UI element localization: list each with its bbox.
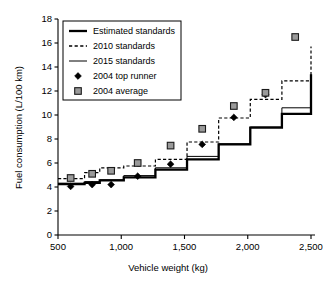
data-point-average: [108, 168, 115, 175]
legend-label: 2010 standards: [93, 41, 156, 51]
data-point-average: [167, 142, 174, 149]
x-tick-label: 1,500: [173, 241, 197, 252]
data-point-average: [292, 34, 299, 41]
data-point-top-runner: [134, 173, 141, 180]
data-point-average: [67, 175, 74, 182]
x-tick-label: 500: [50, 241, 66, 252]
data-point-average: [262, 90, 269, 97]
data-point-average: [134, 160, 141, 167]
data-point-top-runner: [167, 161, 174, 168]
y-tick-group: 024681012141618: [41, 13, 58, 240]
x-tick-group: 5001,0001,5002,0002,500: [50, 235, 323, 252]
legend-label: 2004 average: [93, 86, 148, 96]
data-point-top-runner: [230, 114, 237, 121]
y-tick-label: 2: [47, 205, 52, 216]
data-point-average: [199, 126, 206, 133]
y-tick-label: 18: [41, 13, 52, 24]
x-tick-label: 1,000: [109, 241, 133, 252]
chart-legend: Estimated standards2010 standards2015 st…: [63, 21, 181, 100]
data-point-average: [231, 103, 238, 110]
legend-label: Estimated standards: [93, 26, 176, 36]
y-tick-label: 16: [41, 37, 52, 48]
x-tick-label: 2,500: [299, 241, 323, 252]
data-point-top-runner: [108, 181, 115, 188]
y-axis-title: Fuel consumption (L/100 km): [13, 33, 24, 223]
y-tick-label: 8: [47, 133, 52, 144]
chart-canvas: 5001,0001,5002,0002,500 024681012141618 …: [0, 0, 336, 286]
legend-label: 2015 standards: [93, 56, 156, 66]
y-tick-label: 12: [41, 85, 52, 96]
x-tick-label: 2,000: [236, 241, 260, 252]
y-tick-label: 0: [47, 229, 52, 240]
legend-label: 2004 top runner: [93, 71, 157, 81]
legend-swatch-average: [75, 88, 82, 95]
fuel-consumption-chart: 5001,0001,5002,0002,500 024681012141618 …: [0, 0, 336, 286]
y-tick-label: 6: [47, 157, 52, 168]
y-tick-label: 4: [47, 181, 52, 192]
data-point-average: [89, 171, 96, 178]
y-tick-label: 14: [41, 61, 52, 72]
x-axis-title: Vehicle weight (kg): [0, 262, 336, 273]
y-tick-label: 10: [41, 109, 52, 120]
